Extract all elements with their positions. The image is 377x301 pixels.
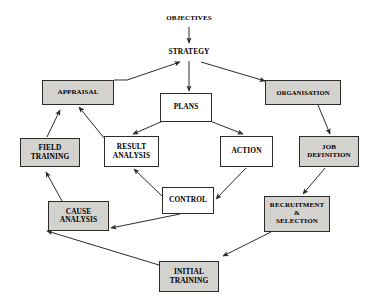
node-job_definition[interactable]: JOB DEFINITION (299, 136, 359, 167)
node-label-control: CONTROL (169, 196, 207, 204)
node-label-job_definition: JOB DEFINITION (307, 144, 350, 160)
node-label-objectives: OBJECTIVES (166, 15, 211, 23)
node-action[interactable]: ACTION (220, 136, 273, 167)
node-label-plans: PLANS (174, 103, 199, 111)
node-label-field_training: FIELD TRAINING (31, 144, 70, 161)
node-label-strategy: STRATEGY (169, 48, 210, 56)
node-control[interactable]: CONTROL (162, 187, 214, 214)
node-objectives[interactable]: OBJECTIVES (152, 12, 226, 25)
node-result_analysis[interactable]: RESULT ANALYSIS (104, 136, 159, 167)
connector-control-to-result-analysis (134, 169, 162, 196)
connector-action-to-control (216, 168, 246, 199)
connector-plans-to-action (210, 121, 243, 134)
connector-job-definition-to-recruitment (303, 168, 325, 194)
node-label-cause_analysis: CAUSE ANALYSIS (60, 208, 98, 225)
node-label-appraisal: APPRAISAL (58, 89, 99, 97)
connector-strategy-to-organisation (201, 62, 265, 81)
node-recruitment_selection[interactable]: RECRUITMENT & SELECTION (264, 196, 330, 232)
node-initial_training[interactable]: INITIAL TRAINING (159, 261, 219, 292)
node-label-recruitment_selection: RECRUITMENT & SELECTION (270, 202, 324, 225)
node-label-result_analysis: RESULT ANALYSIS (113, 143, 151, 160)
node-strategy[interactable]: STRATEGY (155, 46, 223, 59)
connector-cause-analysis-to-field-training (46, 172, 62, 201)
node-organisation[interactable]: ORGANISATION (265, 80, 341, 105)
node-field_training[interactable]: FIELD TRAINING (20, 138, 80, 167)
connector-appraisal-to-strategy (114, 62, 180, 80)
connector-initial-training-to-cause-analysis (47, 231, 159, 265)
connector-result-analysis-to-appraisal (79, 107, 104, 138)
connector-recruitment-to-initial-training (223, 232, 271, 256)
connector-field-training-to-appraisal (47, 110, 60, 137)
connector-control-to-cause-analysis (111, 214, 180, 228)
training-cycle-diagram: OBJECTIVESSTRATEGYAPPRAISALPLANSORGANISA… (0, 0, 377, 301)
connector-plans-to-result-analysis (133, 121, 163, 134)
node-label-initial_training: INITIAL TRAINING (170, 268, 209, 285)
node-label-organisation: ORGANISATION (276, 89, 329, 96)
node-label-action: ACTION (231, 147, 261, 155)
node-plans[interactable]: PLANS (160, 93, 212, 122)
node-appraisal[interactable]: APPRAISAL (42, 80, 114, 105)
node-cause_analysis[interactable]: CAUSE ANALYSIS (48, 201, 109, 231)
connector-organisation-to-job-definition (318, 105, 330, 134)
